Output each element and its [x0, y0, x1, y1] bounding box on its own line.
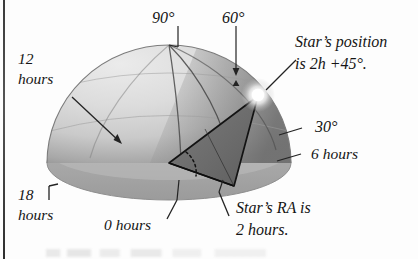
- label-ra-12-line1: 12: [18, 50, 34, 68]
- annotation-star-position-line2: is 2h +45°.: [295, 55, 367, 74]
- label-ra-18-line1: 18: [18, 186, 34, 204]
- label-ra-0: 0 hours: [104, 216, 151, 234]
- star-marker: [241, 78, 275, 112]
- cropped-caption-sliver: [46, 249, 266, 257]
- annotation-star-position-line1: Star’s position: [295, 33, 387, 52]
- diagram-canvas: 90° 60° 30° 12 hours 18 hours 0 hours 6 …: [0, 0, 418, 259]
- label-ra-12-line2: hours: [18, 70, 53, 88]
- label-ra-18-line2: hours: [18, 206, 53, 224]
- label-ra-6: 6 hours: [311, 145, 358, 163]
- label-dec-90: 90°: [152, 9, 174, 27]
- annotation-star-ra-line2: 2 hours.: [236, 221, 288, 240]
- label-dec-60: 60°: [222, 9, 244, 27]
- annotation-star-ra-line1: Star’s RA is: [236, 199, 311, 218]
- label-dec-30: 30°: [315, 118, 337, 136]
